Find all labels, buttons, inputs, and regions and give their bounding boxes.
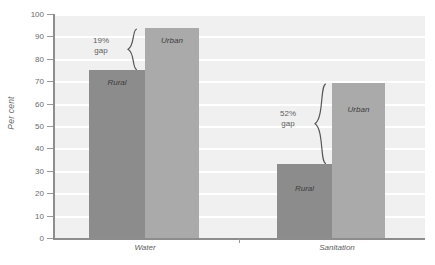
bar-sanitation-rural[interactable]: Rural [277, 164, 332, 238]
brace-sanitation-icon [313, 83, 329, 165]
annotation-sanitation-gap-text: 52% gap [265, 109, 311, 129]
y-tick-label-40: 40 [35, 144, 44, 153]
plot-area: Rural Urban Rural Urban 19% gap [55, 14, 425, 238]
gridline-100 [55, 14, 425, 16]
bar-label-sanitation-rural: Rural [277, 184, 332, 193]
bar-label-water-urban: Urban [145, 36, 199, 45]
x-tick-mark-center [239, 239, 240, 243]
y-axis-labels: 100 90 80 70 60 50 40 30 20 10 0 [0, 0, 54, 265]
y-tick-label-60: 60 [35, 99, 44, 108]
annotation-sanitation-gap-pct: 52% [265, 109, 311, 119]
x-axis-label-sanitation: Sanitation [297, 243, 377, 252]
y-tick-label-80: 80 [35, 54, 44, 63]
y-tick-label-20: 20 [35, 189, 44, 198]
y-tick-label-10: 10 [35, 211, 44, 220]
y-tick-label-30: 30 [35, 166, 44, 175]
x-axis-label-water: Water [110, 243, 180, 252]
y-tick-label-0: 0 [40, 234, 44, 243]
bar-water-urban[interactable]: Urban [145, 28, 199, 239]
annotation-water-gap-text: 19% gap [79, 36, 123, 56]
bar-water-rural[interactable]: Rural [89, 70, 145, 238]
annotation-water-gap-word: gap [79, 46, 123, 56]
y-tick-label-50: 50 [35, 122, 44, 131]
gridline-80 [55, 59, 425, 61]
annotation-sanitation-gap-word: gap [265, 119, 311, 129]
y-axis-line [53, 14, 55, 239]
bar-label-sanitation-urban: Urban [332, 105, 385, 114]
y-tick-label-100: 100 [31, 10, 44, 19]
bar-chart: Per cent 100 90 80 70 60 50 40 30 20 10 … [0, 0, 435, 265]
annotation-water-gap-pct: 19% [79, 36, 123, 46]
bar-label-water-rural: Rural [89, 78, 145, 87]
bar-sanitation-urban[interactable]: Urban [332, 83, 385, 238]
y-tick-label-70: 70 [35, 77, 44, 86]
brace-water-icon [126, 28, 140, 71]
y-tick-label-90: 90 [35, 32, 44, 41]
